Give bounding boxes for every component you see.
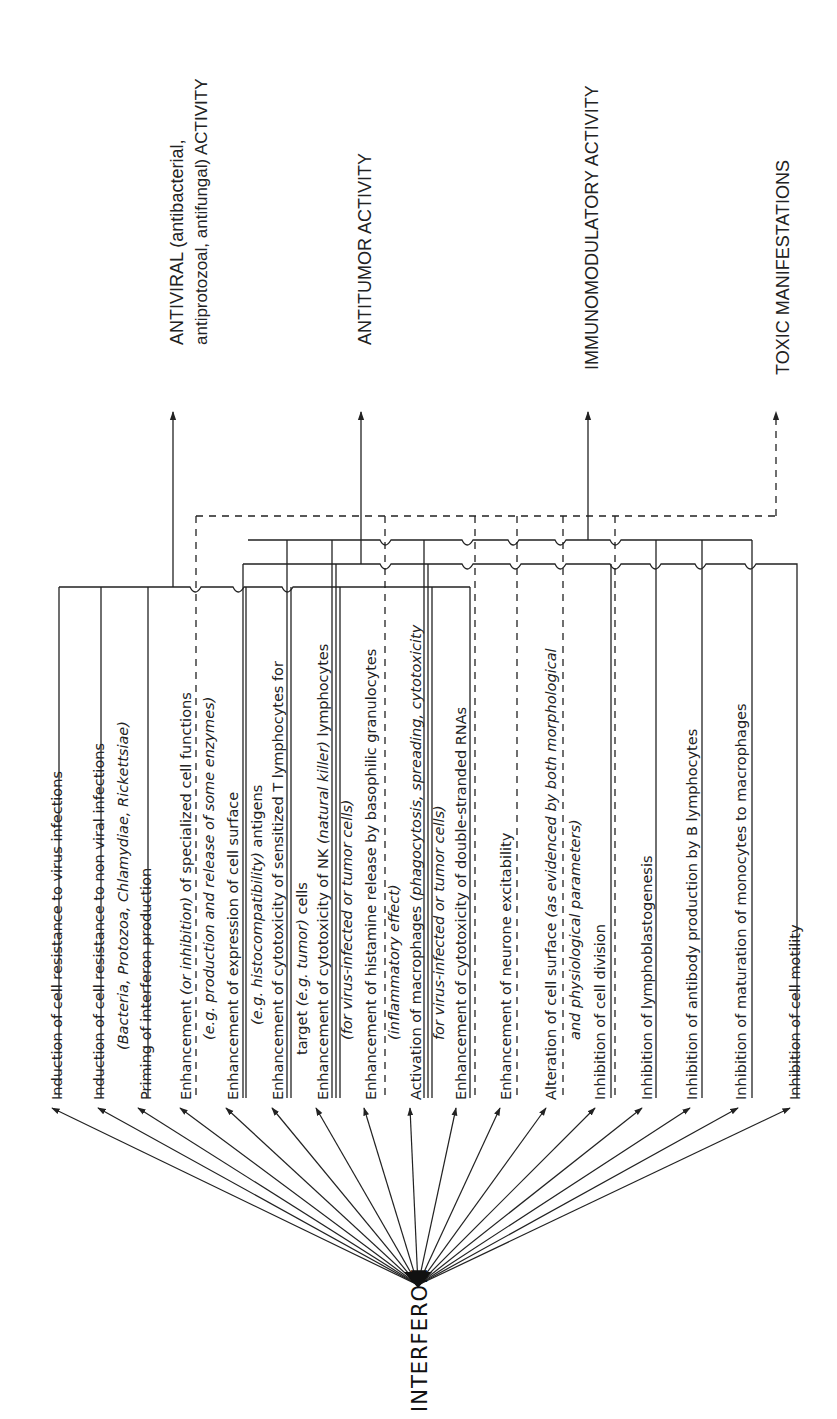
category-toxic-manifestations: TOXIC MANIFESTATIONS <box>773 160 793 375</box>
effect-1: Induction of cell resistance to virus in… <box>49 771 65 1100</box>
effect-2-sub: (Bacteria, Protozoa, Chlamydiae, Rickett… <box>115 721 131 1050</box>
category-immunomodulatory: IMMUNOMODULATORY ACTIVITY <box>582 85 602 370</box>
effect-9-sub: for virus-infected or tumor cells) <box>431 805 447 1040</box>
category-antiviral-line1: ANTIVIRAL (antibacterial, <box>167 140 187 345</box>
effect-12-sub: and physiological parameters) <box>567 819 583 1040</box>
effect-15: Inhibition of antibody production by B l… <box>684 729 700 1100</box>
effect-7: Enhancement of cytotoxicity of NK (natur… <box>315 644 331 1100</box>
effect-5: Enhancement of expression of cell surfac… <box>225 792 241 1100</box>
bus-immunomodulatory <box>248 540 752 545</box>
category-antiviral-line2: antiprotozoal, antifungal) ACTIVITY <box>192 79 211 345</box>
effect-4: Enhancement (or inhibition) of specializ… <box>178 692 194 1100</box>
effect-8: Enhancement of histamine release by baso… <box>363 649 379 1100</box>
effect-12: Alteration of cell surface (as evidenced… <box>543 648 559 1100</box>
category-antitumor: ANTITUMOR ACTIVITY <box>355 153 375 345</box>
effect-6-sub: target (e.g. tumor) cells <box>294 882 310 1055</box>
effect-3: Priming of interferon production <box>138 868 154 1100</box>
effect-6: Enhancement of cytotoxicity of sensitize… <box>270 661 286 1100</box>
effect-14: Inhibition of lymphoblastogenesis <box>639 856 655 1101</box>
effect-labels: Induction of cell resistance to virus in… <box>49 624 803 1100</box>
effect-4-sub: (e.g. production and release of some enz… <box>201 697 217 1040</box>
interferon-effects-diagram: ANTIVIRAL (antibacterial, antiprotozoal,… <box>0 0 837 1419</box>
effect-11: Enhancement of neurone excitability <box>498 832 514 1100</box>
effect-7-sub: (for virus-infected or tumor cells) <box>339 800 355 1040</box>
effect-5-sub: (e.g. histocompatibility) antigens <box>249 785 265 1025</box>
effect-9: Activation of macrophages (phagocytosis,… <box>408 624 424 1100</box>
effect-16: Inhibition of maturation of monocytes to… <box>733 703 749 1100</box>
effect-2: Induction of cell resistance to non vira… <box>91 743 107 1100</box>
effect-8-sub: (inflammatory effect) <box>386 884 402 1040</box>
fan-rays <box>52 1108 790 1288</box>
interferon-label: INTERFERON <box>408 1267 432 1412</box>
effect-13: Inhibition of cell division <box>592 924 608 1100</box>
category-antiviral: ANTIVIRAL (antibacterial, antiprotozoal,… <box>167 79 211 345</box>
effect-10: Enhancement of cytotoxicity of double-st… <box>453 707 469 1100</box>
effect-17: Inhibition of cell motility <box>787 924 803 1100</box>
